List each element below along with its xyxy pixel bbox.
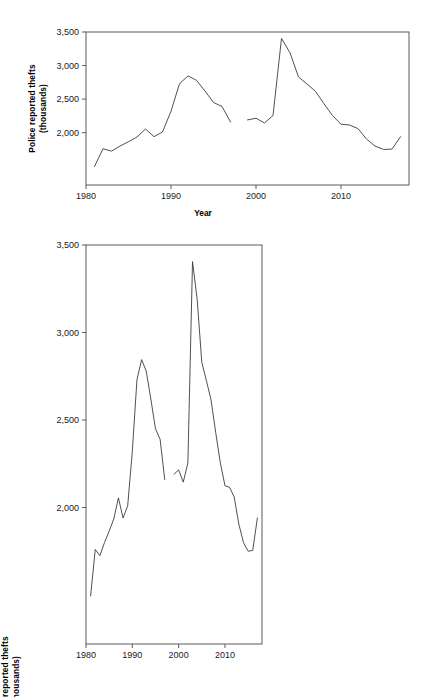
series-line-segment-2 [174,262,257,552]
y-tick-label: 3,500 [56,27,79,37]
y-tick-label: 2,000 [56,128,79,138]
x-tick-label: 2000 [246,191,266,200]
chart-figure-wide-aspect: 2,0002,5003,0003,5001980199020002010 Pol… [0,0,427,230]
plot-frame [86,32,409,185]
y-axis-label-line2: (thousands) [37,39,48,179]
y-axis-label-bottom: Police reported thefts (thousands) [0,611,21,697]
series-line-segment-2 [248,38,401,149]
plot-frame [86,245,262,644]
series-line-segment-1 [91,360,165,596]
series-line-segment-1 [95,76,231,167]
x-tick-label: 1980 [76,191,96,200]
y-tick-label: 3,000 [56,328,79,338]
y-tick-label: 3,500 [56,240,79,250]
y-axis-label-line1: Police reported thefts [27,39,38,179]
y-axis-label-line1: Police reported thefts [0,611,10,697]
chart-figure-tall-aspect: 2,0002,5003,0003,5001980199020002010 Pol… [0,230,427,697]
x-tick-label: 2000 [169,650,189,660]
y-axis-label-line2: (thousands) [10,611,21,697]
x-tick-label: 2010 [331,191,351,200]
y-tick-label: 2,500 [56,94,79,104]
x-tick-label: 1990 [161,191,181,200]
x-axis-label-top: Year [173,208,233,218]
x-tick-label: 1990 [122,650,142,660]
y-tick-label: 2,000 [56,503,79,513]
x-tick-label: 1980 [76,650,96,660]
y-axis-label-top: Police reported thefts (thousands) [27,39,48,179]
line-chart-tall-aspect: 2,0002,5003,0003,5001980199020002010 [0,230,427,670]
x-tick-label: 2010 [215,650,235,660]
y-tick-label: 2,500 [56,415,79,425]
y-tick-label: 3,000 [56,61,79,71]
line-chart-wide-aspect: 2,0002,5003,0003,5001980199020002010 [0,0,427,200]
